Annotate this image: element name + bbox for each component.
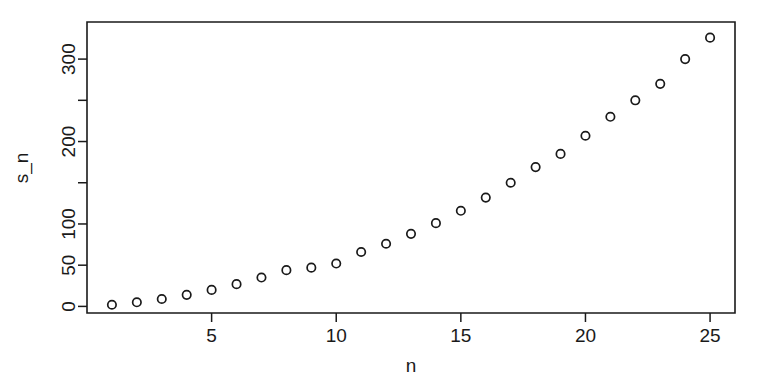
data-point	[407, 230, 415, 238]
x-tick-label-15: 15	[450, 325, 471, 346]
y-tick-label-200: 200	[58, 126, 79, 158]
data-point-series	[108, 33, 715, 308]
data-point	[257, 273, 265, 281]
data-point	[631, 96, 639, 104]
plot-box-frame	[87, 22, 735, 313]
x-tick-label-20: 20	[575, 325, 596, 346]
x-tick-label-25: 25	[700, 325, 721, 346]
y-tick-label-300: 300	[58, 43, 79, 75]
x-axis-title: n	[406, 355, 417, 376]
y-tick-label-0: 0	[58, 301, 79, 312]
data-point	[457, 207, 465, 215]
x-axis-tick-labels: 510152025	[206, 325, 720, 346]
y-tick-label-50: 50	[58, 255, 79, 276]
data-point	[556, 150, 564, 158]
scatter-plot-figure: 050100200300 510152025 n s_n	[0, 0, 764, 381]
x-tick-label-5: 5	[206, 325, 217, 346]
y-axis-title: s_n	[11, 153, 33, 184]
data-point	[681, 55, 689, 63]
data-point	[606, 113, 614, 121]
plot-canvas: 050100200300 510152025 n s_n	[0, 0, 764, 381]
data-point	[581, 132, 589, 140]
x-tick-label-10: 10	[326, 325, 347, 346]
data-point	[207, 286, 215, 294]
data-point	[432, 219, 440, 227]
data-point	[531, 163, 539, 171]
data-point	[133, 298, 141, 306]
data-point	[656, 80, 664, 88]
data-point	[706, 33, 714, 41]
y-axis-ticks	[78, 59, 87, 306]
data-point	[357, 248, 365, 256]
y-tick-label-100: 100	[58, 208, 79, 240]
data-point	[282, 266, 290, 274]
data-point	[232, 280, 240, 288]
data-point	[382, 240, 390, 248]
data-point	[506, 179, 514, 187]
x-axis-ticks	[212, 313, 710, 322]
data-point	[182, 291, 190, 299]
data-point	[482, 193, 490, 201]
data-point	[307, 263, 315, 271]
y-axis-tick-labels: 050100200300	[58, 43, 79, 311]
data-point	[108, 301, 116, 309]
data-point	[158, 295, 166, 303]
data-point	[332, 259, 340, 267]
